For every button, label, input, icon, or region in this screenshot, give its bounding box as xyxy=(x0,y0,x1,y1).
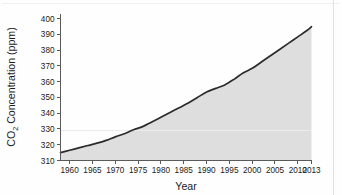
y-tick-label: 370 xyxy=(41,62,55,71)
y-axis-title-co: CO xyxy=(5,131,17,147)
y-axis-title-rest: Concentration (ppm) xyxy=(5,27,17,127)
y-tick-label: 310 xyxy=(41,157,55,166)
y-tick-label: 380 xyxy=(41,46,55,55)
co2-concentration-chart-figure: 310320330340350360370380390400 196019651… xyxy=(0,0,342,195)
y-tick-label: 390 xyxy=(41,30,55,39)
x-axis-ticks: 1960196519701975198019851990199520002005… xyxy=(61,161,322,176)
x-tick-label: 2005 xyxy=(266,166,285,175)
x-tick-label: 1960 xyxy=(61,166,80,175)
co2-area-fill xyxy=(61,27,312,161)
y-tick-label: 340 xyxy=(41,109,55,118)
x-tick-label: 2000 xyxy=(243,166,262,175)
y-tick-label: 330 xyxy=(41,125,55,134)
y-tick-label: 350 xyxy=(41,93,55,102)
x-tick-label: 1970 xyxy=(106,166,125,175)
x-axis-title: Year xyxy=(175,180,197,192)
y-axis-ticks: 310320330340350360370380390400 xyxy=(41,15,61,166)
x-tick-label: 1975 xyxy=(129,166,148,175)
y-tick-label: 320 xyxy=(41,141,55,150)
chart-canvas: 310320330340350360370380390400 196019651… xyxy=(0,0,342,195)
y-axis-title: CO2 Concentration (ppm) xyxy=(5,27,20,146)
x-tick-label: 1965 xyxy=(83,166,102,175)
x-tick-label: 2013 xyxy=(302,166,321,175)
x-tick-label: 1985 xyxy=(175,166,194,175)
y-tick-label: 360 xyxy=(41,78,55,87)
svg-text:CO2 Concentration (ppm): CO2 Concentration (ppm) xyxy=(5,27,20,146)
y-tick-label: 400 xyxy=(41,15,55,24)
x-tick-label: 1990 xyxy=(197,166,216,175)
x-tick-label: 1980 xyxy=(152,166,171,175)
x-tick-label: 1995 xyxy=(220,166,239,175)
